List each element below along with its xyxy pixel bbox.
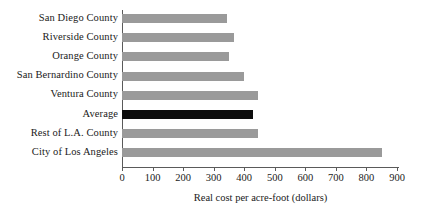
bar-group bbox=[122, 10, 397, 165]
category-label: San Diego County bbox=[0, 12, 118, 23]
category-label: Rest of L.A. County bbox=[0, 127, 118, 138]
bar bbox=[122, 14, 227, 23]
x-axis-tick-label: 400 bbox=[236, 172, 252, 183]
x-axis-tick-label: 200 bbox=[175, 172, 191, 183]
category-label: City of Los Angeles bbox=[0, 146, 118, 157]
x-axis-tick bbox=[153, 167, 154, 171]
bar bbox=[122, 33, 234, 42]
x-axis-tick bbox=[397, 167, 398, 171]
x-axis-tick bbox=[244, 167, 245, 171]
x-axis-tick bbox=[366, 167, 367, 171]
x-axis-tick bbox=[305, 167, 306, 171]
bar bbox=[122, 72, 244, 81]
bar-row bbox=[122, 72, 397, 81]
bar bbox=[122, 148, 382, 157]
x-axis-tick-label: 100 bbox=[145, 172, 161, 183]
category-label: Riverside County bbox=[0, 31, 118, 42]
bar-row bbox=[122, 91, 397, 100]
bar-row bbox=[122, 14, 397, 23]
bar bbox=[122, 91, 258, 100]
bar-row bbox=[122, 33, 397, 42]
x-axis-tick bbox=[275, 167, 276, 171]
x-axis-tick-label: 300 bbox=[206, 172, 222, 183]
bar bbox=[122, 52, 229, 61]
bar-chart: San Diego CountyRiverside CountyOrange C… bbox=[0, 0, 437, 215]
bar-row bbox=[122, 129, 397, 138]
bar-row bbox=[122, 52, 397, 61]
x-axis-tick bbox=[122, 167, 123, 171]
x-axis-line bbox=[122, 167, 399, 168]
x-axis-tick bbox=[336, 167, 337, 171]
category-label: San Bernardino County bbox=[0, 69, 118, 80]
bar-row bbox=[122, 148, 397, 157]
bar bbox=[122, 129, 258, 138]
x-axis-tick-label: 700 bbox=[328, 172, 344, 183]
x-axis-tick bbox=[214, 167, 215, 171]
x-axis-tick bbox=[183, 167, 184, 171]
category-label: Orange County bbox=[0, 50, 118, 61]
bar-row bbox=[122, 110, 397, 119]
bar bbox=[122, 110, 253, 119]
x-axis-title: Real cost per acre-foot (dollars) bbox=[122, 192, 399, 203]
x-axis-tick-label: 900 bbox=[389, 172, 405, 183]
x-axis-tick-label: 500 bbox=[267, 172, 283, 183]
x-axis-tick-label: 800 bbox=[359, 172, 375, 183]
category-label: Average bbox=[0, 108, 118, 119]
x-axis-tick-label: 600 bbox=[297, 172, 313, 183]
category-label: Ventura County bbox=[0, 88, 118, 99]
x-axis-tick-label: 0 bbox=[119, 172, 124, 183]
